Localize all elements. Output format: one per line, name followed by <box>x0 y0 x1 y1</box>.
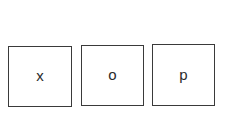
letter-tile-p[interactable]: p <box>152 44 215 106</box>
tile-label: x <box>36 68 44 83</box>
letter-tile-o[interactable]: o <box>81 45 144 106</box>
tile-label: o <box>108 67 116 82</box>
tile-label: p <box>179 67 187 82</box>
letter-tile-x[interactable]: x <box>8 46 72 107</box>
